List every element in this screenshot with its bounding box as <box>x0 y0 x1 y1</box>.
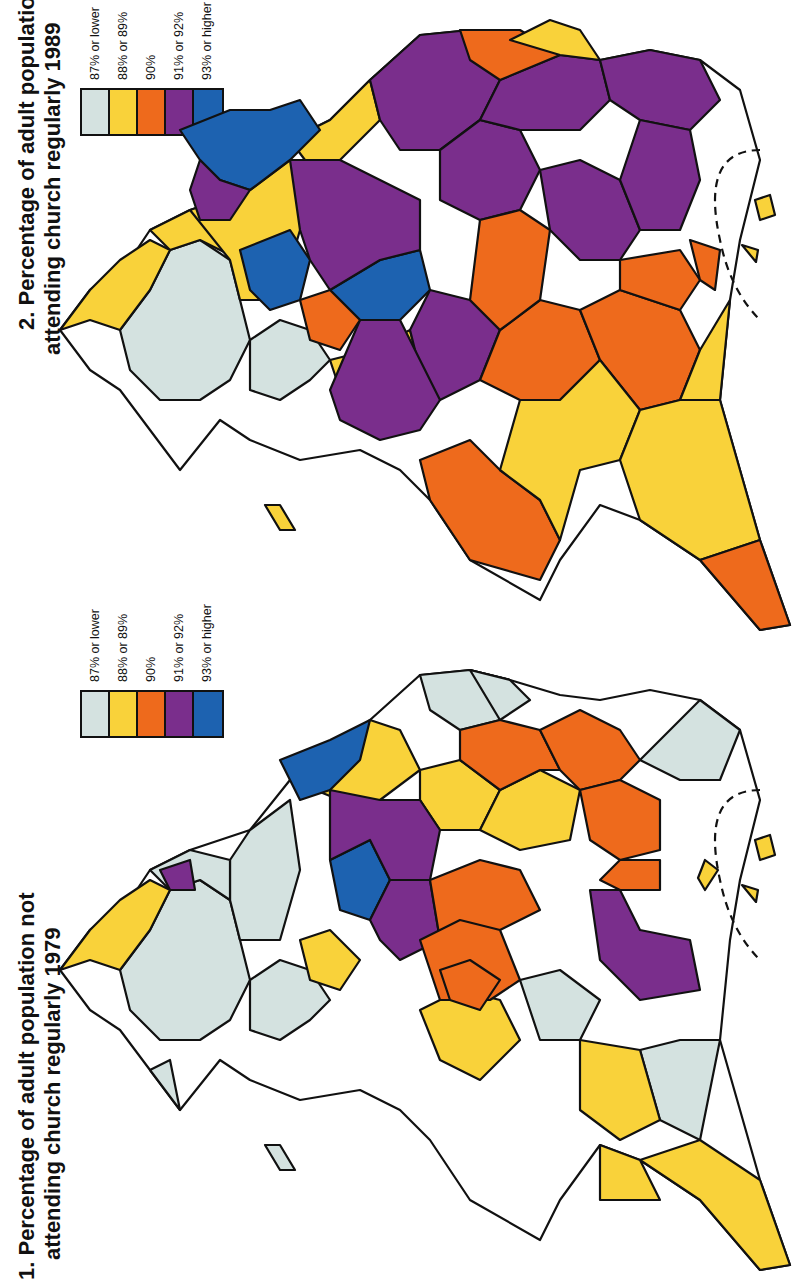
choropleth-map-1989 <box>0 0 805 650</box>
choropleth-map-1979 <box>0 640 805 1283</box>
map-panel-1979: 1. Percentage of adult population not at… <box>0 640 805 1283</box>
map-panel-1989: 2. Percentage of adult population not at… <box>0 0 805 650</box>
